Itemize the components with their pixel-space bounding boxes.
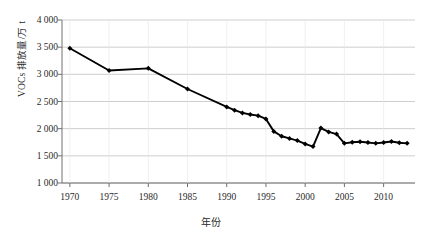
x-axis-tick-label: 1985	[178, 192, 197, 202]
x-axis-tick-label: 1995	[256, 192, 275, 202]
x-axis-tick-label: 2005	[335, 192, 354, 202]
x-axis-tick-label: 2010	[374, 192, 393, 202]
x-axis-tick-label: 1970	[60, 192, 79, 202]
x-axis-tick-label: 2000	[296, 192, 315, 202]
x-axis-tick-label: 1980	[139, 192, 158, 202]
plot-area	[0, 0, 421, 240]
gridlines	[62, 20, 415, 183]
x-axis-tick-label: 1990	[217, 192, 236, 202]
data-point-markers	[67, 46, 409, 149]
y-axis-tick-marks	[58, 20, 62, 183]
x-axis-tick-marks	[70, 20, 384, 187]
chart-figure: 1 0001 5002 0002 5003 0003 5004 000 VOCs…	[0, 0, 421, 240]
data-line-series-vocs	[70, 48, 407, 146]
x-axis-tick-label: 1975	[100, 192, 119, 202]
